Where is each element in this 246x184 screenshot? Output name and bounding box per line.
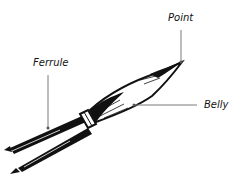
ferrule-label: Ferrule <box>33 58 68 68</box>
leader-lines <box>47 30 198 130</box>
brush-bristles <box>90 62 182 122</box>
point-label: Point <box>168 13 193 23</box>
belly-label: Belly <box>204 100 229 110</box>
paintbrush-diagram <box>0 0 246 184</box>
